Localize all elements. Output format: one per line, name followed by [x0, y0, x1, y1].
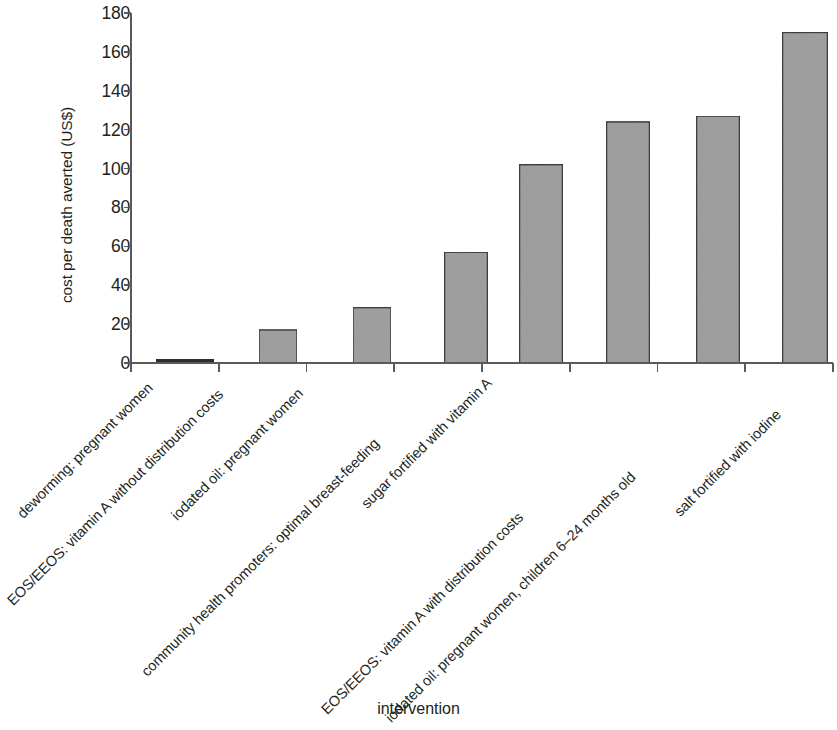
bar[interactable]: [520, 165, 563, 363]
bar[interactable]: [353, 308, 391, 363]
bar[interactable]: [783, 32, 828, 363]
bar[interactable]: [259, 330, 297, 363]
bar[interactable]: [697, 116, 740, 363]
bars-group: [156, 32, 828, 363]
bar[interactable]: [445, 252, 488, 363]
bar-chart-figure: cost per death averted (US$) 02040608010…: [0, 0, 837, 730]
x-axis-title: intervention: [0, 700, 837, 718]
bar[interactable]: [607, 122, 650, 363]
